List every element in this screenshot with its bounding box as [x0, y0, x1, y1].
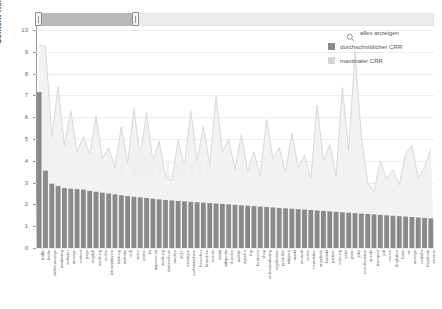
x-tick-label: produkte [281, 250, 285, 266]
bar-average-crr[interactable] [182, 201, 187, 248]
x-tick-label: datenschutz [167, 250, 171, 272]
x-axis-labels: trafficberlinstellenanzeigemarketinganbi… [36, 250, 434, 309]
bar-average-crr[interactable] [119, 195, 124, 248]
bar-average-crr[interactable] [359, 214, 364, 248]
bar-average-crr[interactable] [245, 206, 250, 248]
bar-average-crr[interactable] [43, 171, 48, 248]
bar-average-crr[interactable] [258, 207, 263, 248]
bar-average-crr[interactable] [365, 214, 370, 248]
bar-average-crr[interactable] [308, 210, 313, 248]
bar-average-crr[interactable] [346, 213, 351, 248]
bar-average-crr[interactable] [384, 215, 389, 248]
bar-average-crr[interactable] [37, 92, 42, 248]
bar-average-crr[interactable] [372, 214, 377, 248]
x-tick-label: wikipedia [224, 250, 228, 267]
bar-average-crr[interactable] [252, 206, 257, 248]
bar-average-crr[interactable] [289, 209, 294, 248]
bar-average-crr[interactable] [163, 200, 168, 248]
x-tick-label: stoeren [432, 250, 436, 264]
bar-average-crr[interactable] [144, 198, 149, 248]
bar-average-crr[interactable] [176, 201, 181, 248]
bar-average-crr[interactable] [378, 215, 383, 248]
bar-average-crr[interactable] [138, 197, 143, 248]
bar-average-crr[interactable] [100, 193, 105, 248]
y-tick-label: 6 [4, 114, 28, 120]
x-tick-label: agentur [243, 250, 247, 264]
x-tick-label: suchmaschine [192, 250, 196, 276]
show-all-button[interactable]: alles anzeigen [328, 28, 436, 37]
legend-item-maximum[interactable]: maximaler CRR [328, 56, 436, 65]
x-tick-label: marketing [60, 250, 64, 268]
bar-average-crr[interactable] [62, 188, 67, 248]
bar-average-crr[interactable] [397, 216, 402, 248]
bar-average-crr[interactable] [353, 213, 358, 248]
bar-average-crr[interactable] [201, 203, 206, 248]
x-tick-label: top [249, 250, 253, 256]
bar-average-crr[interactable] [409, 217, 414, 248]
bar-average-crr[interactable] [226, 204, 231, 248]
x-tick-label: content [79, 250, 83, 263]
bar-average-crr[interactable] [277, 208, 282, 248]
x-tick-label: mobile [237, 250, 241, 262]
x-tick-label: medien [173, 250, 177, 263]
bar-average-crr[interactable] [321, 211, 326, 248]
bar-average-crr[interactable] [68, 189, 73, 248]
bar-average-crr[interactable] [296, 209, 301, 248]
gridline [36, 248, 434, 249]
slider-selected-range[interactable] [36, 13, 136, 26]
x-tick-label: damit [218, 250, 222, 260]
bar-average-crr[interactable] [207, 203, 212, 248]
range-slider[interactable] [36, 13, 434, 26]
bar-average-crr[interactable] [132, 197, 137, 248]
bar-average-crr[interactable] [416, 217, 421, 248]
bar-average-crr[interactable] [315, 211, 320, 249]
bar-average-crr[interactable] [283, 208, 288, 248]
x-tick-label: seite [344, 250, 348, 259]
bar-average-crr[interactable] [428, 218, 433, 248]
bar-average-crr[interactable] [264, 207, 269, 248]
x-tick-label: anbieter [66, 250, 70, 265]
bar-average-crr[interactable] [403, 217, 408, 248]
x-tick-label: video [136, 250, 140, 260]
bar-average-crr[interactable] [340, 212, 345, 248]
bar-average-crr[interactable] [220, 204, 225, 248]
bar-average-crr[interactable] [169, 200, 174, 248]
x-tick-label: jobs [357, 250, 361, 258]
x-tick-label: nutzung [338, 250, 342, 265]
bar-average-crr[interactable] [49, 184, 54, 248]
y-tick-label: 2 [4, 201, 28, 207]
slider-handle-min[interactable] [35, 12, 42, 26]
bar-average-crr[interactable] [334, 212, 339, 248]
x-tick-label: website [123, 250, 127, 264]
y-tick-label: 1 [4, 223, 28, 229]
bar-average-crr[interactable] [422, 218, 427, 248]
bar-average-crr[interactable] [327, 211, 332, 248]
bar-average-crr[interactable] [81, 190, 86, 248]
bar-average-crr[interactable] [56, 186, 61, 248]
bar-average-crr[interactable] [87, 191, 92, 248]
bar-average-crr[interactable] [214, 204, 219, 248]
slider-handle-max[interactable] [132, 12, 139, 26]
bar-average-crr[interactable] [391, 216, 396, 248]
bar-average-crr[interactable] [94, 192, 99, 248]
x-tick-label: kunden [230, 250, 234, 263]
bar-average-crr[interactable] [125, 196, 130, 248]
y-axis-title: Content Relevance Rank (CRR) [0, 0, 3, 44]
bar-average-crr[interactable] [239, 205, 244, 248]
legend-item-average[interactable]: durchschnittlicher CRR [328, 42, 436, 51]
bar-average-crr[interactable] [195, 202, 200, 248]
bar-average-crr[interactable] [271, 207, 276, 248]
x-tick-label: hc [148, 250, 152, 254]
x-tick-label: neuen [388, 250, 392, 261]
bar-average-crr[interactable] [233, 205, 238, 248]
x-tick-label: besucher [199, 250, 203, 267]
bar-average-crr[interactable] [106, 194, 111, 249]
bar-average-crr[interactable] [150, 199, 155, 248]
bar-average-crr[interactable] [157, 199, 162, 248]
bar-average-crr[interactable] [302, 210, 307, 248]
legend-swatch-maximum [328, 57, 335, 64]
bar-average-crr[interactable] [75, 189, 80, 248]
bar-average-crr[interactable] [113, 194, 118, 248]
y-tick-label: 0 [4, 245, 28, 251]
bar-average-crr[interactable] [188, 202, 193, 248]
